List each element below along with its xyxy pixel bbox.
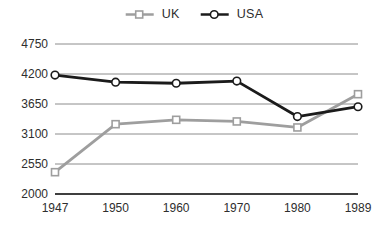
line-chart: UK USA 475042003650310025502000194719501… [0,0,388,230]
y-tick-label: 2550 [21,157,48,171]
usa-series-line [55,75,358,116]
x-tick-label: 1970 [223,201,250,215]
y-tick-label: 4200 [21,67,48,81]
uk-square-marker-icon [173,116,180,123]
y-tick-label: 4750 [21,37,48,51]
usa-circle-marker-icon [112,78,120,86]
uk-square-marker-icon [52,169,59,176]
chart-plot-area: 4750420036503100255020001947195019601970… [0,0,388,230]
usa-circle-marker-icon [51,71,59,79]
y-tick-label: 2000 [21,187,48,201]
y-tick-label: 3650 [21,97,48,111]
uk-series-line [55,94,358,172]
x-tick-label: 1989 [345,201,372,215]
usa-circle-marker-icon [172,79,180,87]
usa-circle-marker-icon [294,113,302,121]
uk-square-marker-icon [233,118,240,125]
uk-square-marker-icon [112,121,119,128]
x-tick-label: 1947 [42,201,69,215]
x-tick-label: 1960 [163,201,190,215]
uk-square-marker-icon [294,124,301,131]
x-tick-label: 1950 [102,201,129,215]
x-tick-label: 1980 [284,201,311,215]
uk-square-marker-icon [355,91,362,98]
usa-circle-marker-icon [354,103,362,111]
y-tick-label: 3100 [21,127,48,141]
usa-circle-marker-icon [233,77,241,85]
